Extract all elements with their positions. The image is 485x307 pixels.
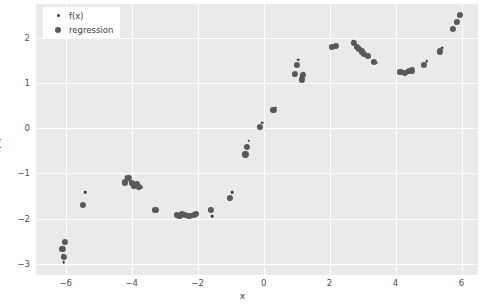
data-point (450, 26, 456, 32)
y-tick-label: −3 (17, 259, 30, 269)
data-point (62, 261, 65, 264)
y-tick-label: 0 (25, 123, 30, 133)
data-point (420, 62, 426, 68)
data-point (242, 151, 248, 157)
x-tick-label: −2 (191, 278, 204, 288)
gridline-horizontal (36, 219, 478, 220)
dot-icon (57, 14, 60, 17)
data-point (136, 184, 142, 190)
data-point (453, 19, 459, 25)
data-point (409, 67, 415, 73)
data-point (211, 215, 214, 218)
data-point (62, 239, 68, 245)
data-point (292, 71, 298, 77)
data-point (437, 48, 443, 54)
legend-item[interactable]: regression (47, 24, 113, 35)
legend: f(x)regression (43, 7, 120, 38)
data-point (208, 206, 214, 212)
x-tick-label: 0 (261, 278, 266, 288)
y-tick-label: 1 (25, 78, 30, 88)
dot-icon (55, 27, 61, 33)
x-tick-label: 2 (327, 278, 332, 288)
y-tick-label: −2 (17, 214, 30, 224)
data-point (244, 144, 250, 150)
gridline-horizontal (36, 83, 478, 84)
gridline-horizontal (36, 173, 478, 174)
scatter-plot-figure: −6−4−20246 210−1−2−3 x f(x) f(x)regressi… (0, 0, 485, 307)
gridline-horizontal (36, 38, 478, 39)
gridline-vertical (396, 4, 397, 275)
y-tick-label: 2 (25, 33, 30, 43)
gridline-vertical (132, 4, 133, 275)
data-point (257, 124, 263, 130)
y-tick-label: −1 (17, 168, 30, 178)
data-point (297, 58, 300, 61)
x-tick-label: −6 (59, 278, 72, 288)
data-point (293, 62, 299, 68)
y-axis-label: f(x) (0, 137, 2, 153)
plot-area (36, 4, 478, 275)
data-point (333, 43, 339, 49)
legend-marker-icon (47, 27, 69, 33)
legend-marker-icon (47, 14, 69, 17)
x-tick-label: −4 (125, 278, 138, 288)
legend-item-label: f(x) (69, 11, 84, 21)
x-tick-label: 4 (393, 278, 398, 288)
gridline-horizontal (36, 264, 478, 265)
legend-item-label: regression (69, 25, 113, 35)
gridline-vertical (66, 4, 67, 275)
legend-item[interactable]: f(x) (47, 10, 113, 21)
data-point (59, 246, 65, 252)
gridline-vertical (462, 4, 463, 275)
gridline-vertical (264, 4, 265, 275)
x-tick-label: 6 (459, 278, 464, 288)
data-point (300, 72, 306, 78)
data-point (371, 59, 377, 65)
data-point (227, 195, 233, 201)
gridline-vertical (198, 4, 199, 275)
data-point (231, 191, 234, 194)
data-point (247, 140, 250, 143)
x-axis-label: x (0, 291, 485, 301)
data-point (84, 191, 87, 194)
data-point (270, 107, 276, 113)
